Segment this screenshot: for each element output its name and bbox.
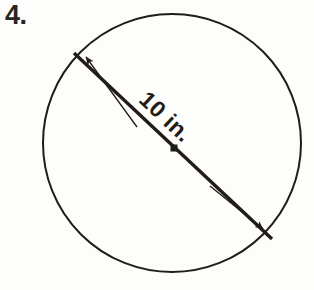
lower-right-dimension-arrow <box>210 186 263 229</box>
diagram-canvas: 4. 10 in. <box>0 0 314 290</box>
circle-diameter-figure <box>0 0 314 290</box>
upper-left-dimension-arrow <box>86 57 137 127</box>
